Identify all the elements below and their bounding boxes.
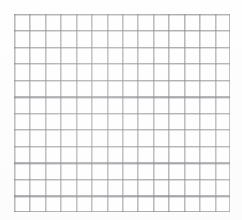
grid-bottom-border — [14, 211, 230, 212]
grid-sheet — [14, 14, 230, 212]
grid-right-border — [229, 14, 230, 212]
graph-paper-page — [0, 0, 242, 220]
grid-minor-lines — [14, 14, 230, 212]
